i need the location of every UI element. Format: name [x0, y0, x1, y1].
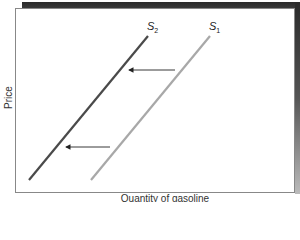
x-axis-label: Quantity of gasoline — [0, 193, 300, 202]
supply-curve-s2 — [29, 36, 148, 180]
s1-label-sub: 1 — [216, 27, 220, 34]
supply-curve-s1 — [91, 36, 210, 180]
s1-label: S1 — [209, 20, 220, 34]
s2-label: S2 — [147, 20, 158, 34]
y-axis-label: Price — [3, 83, 14, 113]
s2-label-sub: 2 — [154, 27, 158, 34]
